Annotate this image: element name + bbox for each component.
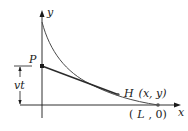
point-l-marker [156, 103, 160, 107]
point-l-open-paren: ( [129, 108, 133, 121]
point-h-coords: (x, y) [139, 87, 167, 100]
point-h-name: H [123, 87, 134, 100]
point-l-name: L [136, 108, 144, 121]
pursuit-curve-diagram: y x P vt H (x, y) ( L , 0) [0, 0, 188, 131]
point-h-marker [116, 93, 119, 96]
tangent-line-p-to-h [42, 66, 118, 95]
y-axis-label: y [46, 6, 54, 19]
y-axis-arrow-icon [40, 10, 45, 17]
vt-dimension-arrow-up-icon [18, 67, 21, 72]
x-axis-label: x [178, 106, 185, 119]
point-l-label: ( L , 0) [129, 104, 167, 121]
point-h-label: H (x, y) [123, 83, 167, 100]
vt-dimension-arrow-down-icon [18, 100, 21, 105]
point-p-label: P [28, 53, 37, 66]
point-p-marker [40, 64, 44, 68]
point-l-rest: , 0) [149, 108, 167, 121]
vt-dimension-label: vt [14, 79, 25, 92]
